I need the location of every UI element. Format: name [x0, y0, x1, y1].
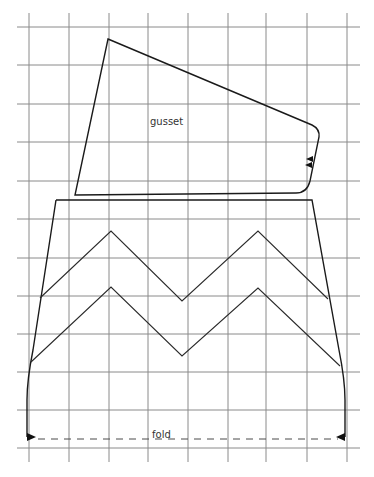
fold-arrow-right-icon	[336, 433, 345, 441]
gusset-outline	[75, 39, 319, 195]
fold-label: fold	[152, 430, 171, 440]
gusset-label: gusset	[150, 117, 183, 127]
notch-icon	[305, 162, 312, 168]
zigzag-upper	[40, 231, 328, 301]
fold-arrow-left-icon	[27, 433, 36, 441]
zigzag-lower	[31, 287, 340, 366]
main-piece-outline	[27, 200, 345, 437]
pattern-canvas	[0, 0, 374, 477]
grid	[17, 13, 360, 462]
